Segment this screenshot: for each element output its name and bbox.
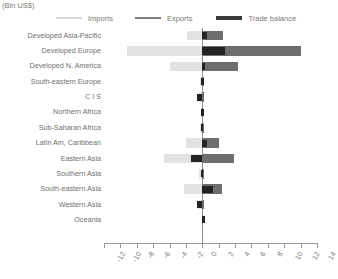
chart-row [104, 136, 317, 151]
legend-label-exports: Exports [167, 14, 192, 23]
category-label: Southern Asia [56, 170, 101, 178]
bar-trade-balance[interactable] [197, 94, 202, 101]
bar-trade-balance[interactable] [202, 47, 225, 54]
bar-imports[interactable] [170, 62, 203, 72]
chart-row [104, 74, 317, 89]
chart-row [104, 105, 317, 120]
x-tick [317, 243, 318, 248]
x-tick-label: 0 [209, 250, 219, 258]
x-tick [284, 243, 285, 248]
x-tick [137, 243, 138, 248]
x-tick [235, 243, 236, 248]
bar-trade-balance[interactable] [201, 170, 204, 177]
chart-row [104, 59, 317, 74]
x-tick [251, 243, 252, 248]
bar-imports[interactable] [127, 46, 202, 56]
chart-row [104, 28, 317, 43]
bar-trade-balance[interactable] [201, 109, 204, 116]
bar-imports[interactable] [184, 184, 202, 194]
x-tick-label: -6 [161, 250, 172, 260]
x-tick-label: -8 [145, 250, 156, 260]
x-tick-label: 8 [275, 250, 285, 258]
x-tick [104, 243, 105, 248]
legend-swatch-trade-balance-icon [216, 16, 242, 20]
x-tick-label: -2 [194, 250, 205, 260]
x-tick-label: 12 [310, 250, 322, 261]
x-tick [219, 243, 220, 248]
x-tick [120, 243, 121, 248]
bar-trade-balance[interactable] [202, 140, 207, 147]
units-label: (Bln US$) [2, 1, 35, 10]
chart-row [104, 197, 317, 212]
category-label: Eastern Asia [61, 155, 101, 163]
x-tick-label: 4 [242, 250, 252, 258]
bar-trade-balance[interactable] [202, 186, 213, 193]
x-tick [202, 243, 203, 248]
x-tick [186, 243, 187, 248]
category-label: C I S [85, 93, 101, 101]
chart-row [104, 151, 317, 166]
legend-swatch-exports-icon [135, 17, 161, 19]
category-label: South-eastern Europe [31, 78, 101, 86]
x-tick-label: -12 [114, 250, 127, 263]
category-label: Western Asia [59, 201, 101, 209]
chart-legend: Imports Exports Trade balance [56, 11, 321, 25]
bar-exports[interactable] [202, 62, 237, 72]
x-tick-label: 14 [326, 250, 338, 261]
bar-trade-balance[interactable] [201, 124, 204, 131]
category-label: Developed Europe [41, 47, 101, 55]
bar-trade-balance[interactable] [201, 78, 204, 85]
legend-item-imports[interactable]: Imports [56, 14, 113, 23]
legend-item-exports[interactable]: Exports [135, 14, 192, 23]
category-label: Northern Africa [53, 108, 101, 116]
bar-trade-balance[interactable] [202, 63, 205, 70]
category-label: Oceania [74, 216, 101, 224]
x-tick-label: 6 [258, 250, 268, 258]
plot-area [104, 28, 317, 243]
bar-exports[interactable] [202, 200, 204, 210]
bar-trade-balance[interactable] [197, 201, 202, 208]
x-tick [170, 243, 171, 248]
x-tick-label: 2 [226, 250, 236, 258]
legend-swatch-imports-icon [56, 17, 82, 19]
category-label: Developed Asia-Pacific [27, 32, 101, 40]
chart-row [104, 89, 317, 104]
bar-imports[interactable] [187, 31, 203, 41]
category-label: Sub-Saharan Africa [39, 124, 101, 132]
bar-trade-balance[interactable] [202, 216, 205, 223]
chart-row [104, 166, 317, 181]
bar-exports[interactable] [202, 92, 203, 102]
chart-row [104, 43, 317, 58]
legend-label-trade-balance: Trade balance [248, 14, 296, 23]
category-axis-labels: Developed Asia-PacificDeveloped EuropeDe… [0, 28, 104, 243]
x-tick-label: -4 [178, 250, 189, 260]
chart-row [104, 212, 317, 227]
legend-label-imports: Imports [88, 14, 113, 23]
category-label: South-eastern Asia [40, 185, 101, 193]
chart-row [104, 120, 317, 135]
x-tick [301, 243, 302, 248]
x-tick-label: 10 [293, 250, 305, 261]
legend-item-trade-balance[interactable]: Trade balance [216, 14, 296, 23]
x-tick [153, 243, 154, 248]
category-label: Latin Am, Caribbean [36, 139, 101, 147]
bar-trade-balance[interactable] [191, 155, 202, 162]
x-tick-label: -10 [131, 250, 144, 263]
bar-imports[interactable] [186, 138, 202, 148]
x-tick [268, 243, 269, 248]
bar-exports[interactable] [202, 154, 234, 164]
category-label: Developed N. America [29, 62, 101, 70]
bar-trade-balance[interactable] [202, 32, 207, 39]
chart-row [104, 182, 317, 197]
